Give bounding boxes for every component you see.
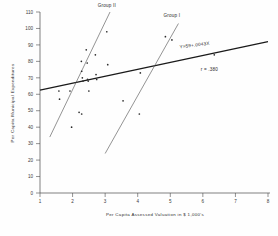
group-ii-line (50, 12, 110, 137)
data-point (138, 113, 140, 115)
y-axis-title: Per Capita Municipal Expenditures (10, 63, 15, 142)
plot-canvas: 0102030405060708090100110 12345678 Group… (0, 0, 278, 236)
data-point (165, 36, 167, 38)
data-point (81, 70, 83, 72)
data-point (95, 54, 97, 56)
data-point (69, 90, 71, 92)
data-point (95, 74, 97, 76)
y-tick-label: 0 (30, 191, 33, 196)
data-point (86, 62, 88, 64)
data-point (59, 98, 61, 100)
y-tick-label: 70 (28, 76, 34, 81)
data-point (81, 77, 83, 79)
data-point (58, 90, 60, 92)
data-point (96, 79, 98, 81)
fitted-lines-layer (40, 12, 268, 154)
data-point (71, 126, 73, 128)
axes-group (40, 12, 270, 193)
x-tick-label: 2 (71, 199, 74, 204)
x-tick-label: 4 (136, 199, 139, 204)
y-tick-label: 50 (28, 108, 34, 113)
x-tick-label: 8 (267, 199, 270, 204)
y-tick-label: 110 (26, 10, 34, 15)
correlation-label: r = .380 (201, 67, 219, 72)
x-tick-label: 6 (202, 199, 205, 204)
data-point (87, 79, 89, 81)
y-tick-label: 20 (28, 158, 34, 163)
data-point (85, 49, 87, 51)
x-tick-label: 5 (169, 199, 172, 204)
annotations-layer: Group IIGroup IY=59+.0043Xr = .380 (98, 3, 219, 72)
y-axis-ticks: 0102030405060708090100110 (25, 10, 40, 196)
y-tick-label: 60 (28, 92, 34, 97)
data-point (171, 39, 173, 41)
y-tick-label: 10 (28, 174, 34, 179)
data-point (82, 80, 84, 82)
x-axis-ticks: 12345678 (39, 193, 270, 204)
data-point (81, 61, 83, 63)
x-axis-title: Per Capita Assessed Valuation in $ 1,000… (106, 212, 205, 217)
data-point (88, 90, 90, 92)
y-tick-label: 40 (28, 125, 34, 130)
data-point (87, 80, 89, 82)
overall-regression (40, 42, 268, 91)
y-tick-label: 30 (28, 141, 34, 146)
x-tick-label: 7 (234, 199, 237, 204)
equation-label: Y=59+.0043X (179, 41, 210, 50)
x-tick-label: 1 (39, 199, 42, 204)
data-point (213, 54, 215, 56)
group-ii-label: Group II (98, 3, 116, 8)
group-i-label: Group I (164, 13, 181, 18)
y-tick-label: 80 (28, 59, 34, 64)
data-point (107, 64, 109, 66)
data-point (122, 100, 124, 102)
data-point (106, 31, 108, 33)
group-i-line (105, 24, 178, 154)
x-tick-label: 3 (104, 199, 107, 204)
data-point (78, 112, 80, 114)
data-point (81, 113, 83, 115)
data-point (139, 72, 141, 74)
scatter-plot-figure: 0102030405060708090100110 12345678 Group… (0, 0, 278, 236)
y-tick-label: 100 (25, 26, 33, 31)
y-tick-label: 90 (28, 43, 34, 48)
